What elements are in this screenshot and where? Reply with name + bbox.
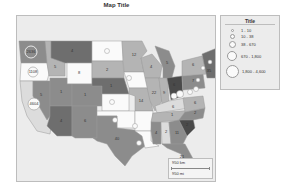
state-value-label: 40 — [115, 136, 120, 141]
state-ar — [135, 111, 153, 131]
circle-icon — [230, 34, 235, 39]
legend-item: 1 - 10 — [221, 28, 281, 33]
legend-item: 10 - 38 — [221, 34, 281, 39]
legend-item: 1,800 - 4,600 — [221, 65, 281, 78]
state-value-label: 22 — [152, 90, 157, 95]
state-value-label: 14 — [139, 98, 144, 103]
state-co — [72, 84, 102, 106]
map-title: Map Title — [16, 2, 217, 8]
circle-icon — [227, 51, 237, 61]
scale-line — [171, 168, 210, 169]
state-value-label: 1108 — [29, 69, 38, 74]
state-value-label: 4604 — [30, 101, 40, 106]
state-value-label: 2636 — [27, 49, 37, 54]
circle-icon — [231, 29, 234, 32]
map-legend: Title 1 - 10 10 - 38 38 - 670 670 - 1,80… — [220, 15, 280, 90]
state-value-label: 12 — [132, 52, 137, 57]
circle-icon — [229, 41, 236, 48]
legend-item: 670 - 1,800 — [221, 51, 281, 61]
scale-bar: 950 km 950 mi — [168, 158, 213, 179]
state-ks — [102, 94, 129, 111]
map-canvas[interactable]: 2636110846044585114621401214422596614211… — [16, 15, 216, 182]
legend-item: 38 - 670 — [221, 41, 281, 48]
circle-icon — [226, 65, 239, 78]
scale-mi-label: 950 mi — [172, 171, 184, 176]
legend-title: Title — [225, 16, 275, 25]
state-value-label: 35 — [207, 68, 212, 73]
scale-km-label: 950 km — [172, 160, 185, 165]
